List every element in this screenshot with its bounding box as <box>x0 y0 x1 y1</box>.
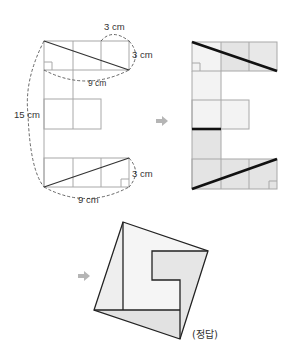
right-figure <box>192 42 277 189</box>
bottom-diagonal <box>44 158 129 187</box>
left-grid <box>44 41 129 187</box>
answer-label: (정답) <box>192 329 218 340</box>
label-top-width: 3 cm <box>104 21 125 32</box>
answer-square: (정답) <box>94 222 218 340</box>
label-top-length: 9 cm <box>88 78 106 88</box>
top-diagonal <box>44 41 129 70</box>
label-bottom-height: 3 cm <box>132 168 153 179</box>
arrow-right-icon <box>156 116 168 126</box>
right-shading <box>192 42 277 189</box>
left-figure: 3 cm 3 cm 9 cm 15 cm 3 cm 9 cm <box>14 21 153 205</box>
label-total-height: 15 cm <box>14 109 40 120</box>
label-top-height: 3 cm <box>132 49 153 60</box>
label-bottom-length: 9 cm <box>78 194 99 205</box>
arrow-right-icon <box>78 271 90 281</box>
diagram-canvas: 3 cm 3 cm 9 cm 15 cm 3 cm 9 cm <box>0 0 296 364</box>
